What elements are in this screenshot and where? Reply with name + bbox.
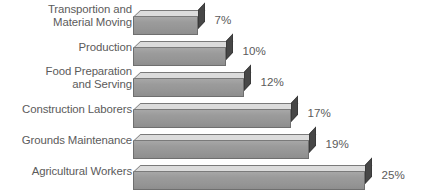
bar-3d bbox=[133, 134, 309, 159]
bar-value-label: 19% bbox=[326, 137, 349, 150]
bar-3d bbox=[133, 10, 198, 35]
bar-3d bbox=[133, 72, 244, 97]
bar-value-label: 12% bbox=[261, 75, 284, 88]
bar-top-face bbox=[133, 41, 234, 48]
bar-top-face bbox=[133, 165, 373, 172]
bar-top-face bbox=[133, 134, 317, 141]
chart-row: Agricultural Workers 25% bbox=[0, 157, 426, 188]
bar-top-face bbox=[133, 72, 252, 79]
category-label: Agricultural Workers bbox=[0, 157, 132, 178]
bar-side-face bbox=[309, 127, 316, 153]
chart-row: Production 10% bbox=[0, 33, 426, 64]
bar-side-face bbox=[291, 96, 298, 122]
bar-value-label: 10% bbox=[243, 44, 266, 57]
bar-side-face bbox=[244, 65, 251, 91]
bar-value-label: 17% bbox=[308, 106, 331, 119]
category-label: Construction Laborers bbox=[0, 95, 132, 116]
category-label: Transportion and Material Moving bbox=[0, 2, 132, 28]
chart-row: Construction Laborers 17% bbox=[0, 95, 426, 126]
bar-3d bbox=[133, 165, 365, 190]
category-label: Grounds Maintenance bbox=[0, 126, 132, 147]
chart-row: Food Preparation and Serving 12% bbox=[0, 64, 426, 95]
bar-front-face bbox=[133, 171, 365, 190]
bar-value-label: 25% bbox=[382, 168, 405, 181]
bar-3d bbox=[133, 103, 291, 128]
bar-side-face bbox=[226, 34, 233, 60]
bar-side-face bbox=[198, 3, 205, 29]
bar-3d bbox=[133, 41, 226, 66]
category-label: Food Preparation and Serving bbox=[0, 64, 132, 90]
bar-top-face bbox=[133, 103, 299, 110]
chart-row: Transportion and Material Moving 7% bbox=[0, 2, 426, 33]
bar-value-label: 7% bbox=[215, 13, 232, 26]
chart-row: Grounds Maintenance 19% bbox=[0, 126, 426, 157]
category-label: Production bbox=[0, 33, 132, 54]
bar-side-face bbox=[365, 158, 372, 184]
bar-top-face bbox=[133, 10, 206, 17]
bar-chart: Transportion and Material Moving 7% Prod… bbox=[0, 0, 426, 191]
